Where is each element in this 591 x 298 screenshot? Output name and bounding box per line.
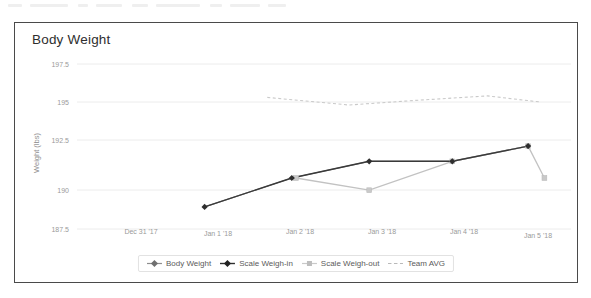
x-tick-label: Jan 3 '18 — [368, 228, 396, 235]
legend-item-scale-weigh-out[interactable]: Scale Weigh-out — [302, 259, 380, 268]
x-tick-label: Jan 2 '18 — [286, 228, 314, 235]
page-top-artifact — [0, 0, 591, 18]
series-line-scale-weigh-in — [205, 146, 528, 207]
y-axis-ticks: 197.5 195 192.5 190 187.5 — [51, 61, 69, 233]
dashed-line-marker-icon — [388, 259, 403, 268]
x-tick-label: Jan 4 '18 — [450, 228, 478, 235]
chart-legend[interactable]: Body Weight Scale Weigh-in Scale Weigh-o… — [138, 255, 454, 272]
body-weight-chart-card: Body Weight 197.5 195 192.5 190 187.5 We… — [14, 22, 578, 283]
y-tick-label: 190 — [57, 187, 69, 194]
series-markers-scale-weigh-in — [201, 143, 531, 210]
x-axis-ticks: Dec 31 '17 Jan 1 '18 Jan 2 '18 Jan 3 '18… — [124, 228, 552, 239]
legend-label: Scale Weigh-in — [239, 259, 293, 268]
y-tick-label: 192.5 — [51, 137, 69, 144]
data-point-marker — [366, 158, 372, 164]
legend-label: Scale Weigh-out — [321, 259, 380, 268]
x-tick-label: Dec 31 '17 — [124, 228, 157, 235]
series-line-team-avg — [267, 96, 540, 105]
y-axis-label: Weight (lbs) — [32, 133, 41, 173]
legend-label: Body Weight — [166, 259, 211, 268]
diamond-line-marker-icon — [147, 259, 162, 268]
data-point-marker — [201, 204, 207, 210]
legend-item-scale-weigh-in[interactable]: Scale Weigh-in — [220, 259, 293, 268]
x-tick-label: Jan 1 '18 — [204, 230, 232, 237]
series-line-scale-weigh-out — [296, 146, 545, 190]
y-tick-label: 187.5 — [51, 226, 69, 233]
line-chart-svg: 197.5 195 192.5 190 187.5 Weight (lbs) D… — [15, 23, 577, 281]
data-point-marker — [542, 176, 547, 181]
y-tick-label: 195 — [57, 99, 69, 106]
data-point-marker — [367, 188, 372, 193]
diamond-line-marker-icon — [220, 259, 235, 268]
x-tick-label: Jan 5 '18 — [524, 232, 552, 239]
series-markers-scale-weigh-out — [294, 144, 547, 193]
square-line-marker-icon — [302, 259, 317, 268]
y-tick-label: 197.5 — [51, 61, 69, 68]
gridlines — [77, 64, 571, 229]
legend-label: Team AVG — [407, 259, 445, 268]
chart-plot-area: 197.5 195 192.5 190 187.5 Weight (lbs) D… — [15, 23, 577, 281]
legend-item-team-avg[interactable]: Team AVG — [388, 259, 445, 268]
legend-item-body-weight[interactable]: Body Weight — [147, 259, 211, 268]
